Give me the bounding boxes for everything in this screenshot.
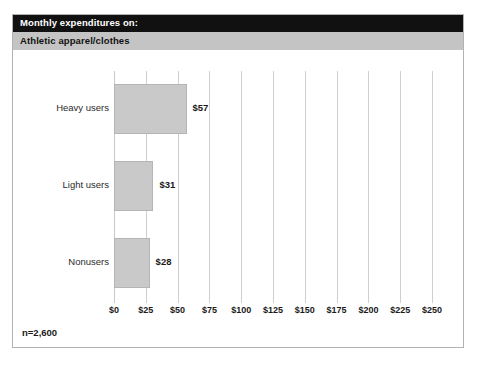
chart-figure: Monthly expenditures on: Athletic appare… bbox=[12, 14, 464, 348]
tick-label-150: $150 bbox=[295, 305, 315, 315]
tick-label-175: $175 bbox=[327, 305, 347, 315]
category-label-light-users: Light users bbox=[63, 179, 109, 190]
gridline-75 bbox=[209, 71, 210, 303]
category-label-heavy-users: Heavy users bbox=[56, 102, 109, 113]
value-axis-tick-labels: $0$25$50$75$100$125$150$175$200$225$250 bbox=[114, 305, 432, 321]
page-title: Monthly expenditures on: bbox=[20, 17, 138, 28]
gridline-200 bbox=[368, 71, 369, 303]
tick-label-225: $225 bbox=[390, 305, 410, 315]
bar-value-label: $28 bbox=[156, 256, 172, 267]
chart-subtitle: Athletic apparel/clothes bbox=[20, 35, 130, 46]
bar-value-label: $31 bbox=[159, 179, 175, 190]
bar-light-users[interactable] bbox=[114, 161, 153, 211]
tick-label-50: $50 bbox=[170, 305, 185, 315]
category-axis-labels: Heavy usersLight usersNonusers bbox=[13, 71, 109, 303]
gridline-150 bbox=[305, 71, 306, 303]
gridline-125 bbox=[273, 71, 274, 303]
gridline-225 bbox=[400, 71, 401, 303]
category-label-nonusers: Nonusers bbox=[68, 256, 109, 267]
gridline-250 bbox=[432, 71, 433, 303]
tick-label-100: $100 bbox=[231, 305, 251, 315]
bar-value-label: $57 bbox=[193, 102, 209, 113]
tick-label-125: $125 bbox=[263, 305, 283, 315]
bar-heavy-users[interactable] bbox=[114, 84, 187, 134]
tick-label-0: $0 bbox=[109, 305, 119, 315]
gridline-100 bbox=[241, 71, 242, 303]
tick-label-250: $250 bbox=[422, 305, 442, 315]
bar-nonusers[interactable] bbox=[114, 238, 150, 288]
tick-label-200: $200 bbox=[358, 305, 378, 315]
sample-size-note: n=2,600 bbox=[22, 327, 57, 338]
tick-label-75: $75 bbox=[202, 305, 217, 315]
tick-label-25: $25 bbox=[138, 305, 153, 315]
plot-area: $57$31$28 bbox=[114, 71, 432, 303]
gridline-175 bbox=[337, 71, 338, 303]
